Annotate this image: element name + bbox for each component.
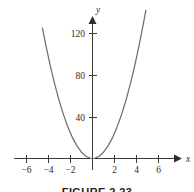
x-tick-label-4: 4 bbox=[134, 165, 139, 175]
y-axis-arrow-icon bbox=[89, 16, 97, 24]
figure-caption: FIGURE 2.23 bbox=[0, 186, 194, 192]
parabola-curve bbox=[42, 10, 145, 158]
x-tick-label-2: 2 bbox=[112, 165, 117, 175]
x-axis-label: x bbox=[185, 154, 191, 164]
x-tick-label-6: 6 bbox=[156, 165, 161, 175]
parabola-plot: −6 −4 −2 2 4 6 120 80 40 y x bbox=[0, 0, 194, 192]
y-tick-label-40: 40 bbox=[76, 113, 86, 123]
y-tick-label-80: 80 bbox=[76, 71, 86, 81]
figure-container: −6 −4 −2 2 4 6 120 80 40 y x FIGURE 2.23 bbox=[0, 0, 194, 192]
x-axis-arrow-icon bbox=[174, 155, 182, 163]
x-tick-label--4: −4 bbox=[43, 165, 53, 175]
x-tick-label--2: −2 bbox=[65, 165, 75, 175]
x-tick-label--6: −6 bbox=[21, 165, 31, 175]
y-tick-label-120: 120 bbox=[71, 29, 86, 39]
y-axis-label: y bbox=[95, 5, 101, 15]
